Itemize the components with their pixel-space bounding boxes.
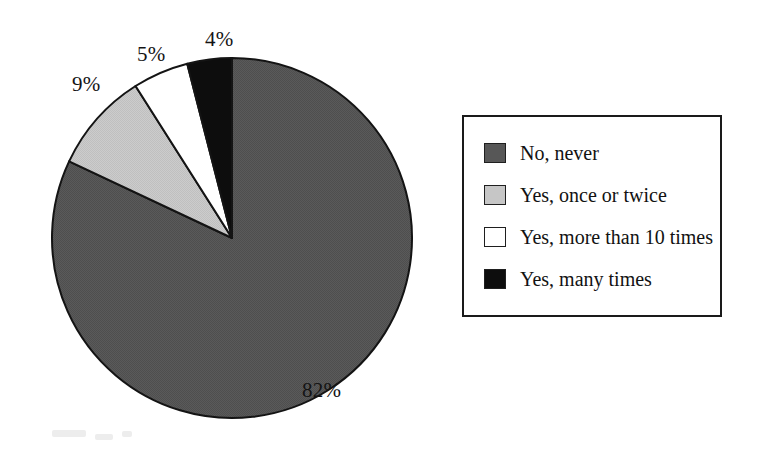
scan-speckle [52, 430, 86, 437]
legend-item-once-or-twice: Yes, once or twice [484, 177, 708, 213]
legend-swatch-icon [484, 269, 506, 289]
legend-item-more-than-10-times: Yes, more than 10 times [484, 219, 708, 255]
legend-label: Yes, many times [520, 269, 652, 289]
chart-legend: No, never Yes, once or twice Yes, more t… [462, 115, 722, 317]
legend-item-no-never: No, never [484, 135, 708, 171]
legend-label: Yes, more than 10 times [520, 227, 713, 247]
pie-label-many-times: 4% [205, 27, 233, 52]
pie-chart-figure: 82% 9% 5% 4% No, never Yes, once or twic… [0, 0, 764, 465]
scan-speckle [122, 431, 132, 437]
pie-svg [0, 0, 440, 465]
legend-swatch-icon [484, 185, 506, 205]
legend-item-many-times: Yes, many times [484, 261, 708, 297]
pie-label-more-than-10-times: 5% [137, 42, 165, 67]
scan-speckle [95, 434, 113, 440]
legend-item-list: No, never Yes, once or twice Yes, more t… [484, 135, 708, 303]
pie-slices [52, 58, 412, 418]
legend-label: No, never [520, 143, 599, 163]
legend-swatch-icon [484, 143, 506, 163]
pie-label-no-never: 82% [302, 378, 341, 403]
legend-swatch-icon [484, 227, 506, 247]
pie-label-once-or-twice: 9% [72, 72, 100, 97]
legend-label: Yes, once or twice [520, 185, 667, 205]
pie-chart-area: 82% 9% 5% 4% [0, 0, 440, 465]
